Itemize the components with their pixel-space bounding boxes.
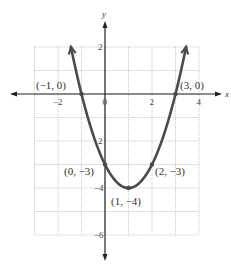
x-tick-label: 0 (103, 97, 108, 107)
point-label: (0, −3) (64, 165, 94, 178)
y-tick-label: 2 (98, 136, 103, 146)
y-axis-bottom-arrow-icon (103, 254, 108, 261)
point-label: (1, −4) (111, 195, 141, 208)
point-label: (−1, 0) (36, 79, 66, 92)
y-tick-label: −4 (94, 183, 104, 193)
point-marker (126, 186, 130, 190)
x-axis-right-arrow-icon (215, 92, 222, 97)
x-axis-label: x (224, 89, 229, 99)
point-marker (79, 92, 83, 96)
point-label: (2, −3) (155, 165, 185, 178)
x-tick-label: 4 (197, 97, 202, 107)
y-tick-label: 2 (98, 42, 103, 52)
x-tick-label: −2 (53, 97, 63, 107)
point-label: (3, 0) (180, 79, 204, 92)
y-axis-label: y (101, 9, 106, 19)
parabola-chart: x y −202422−4−6 (−1, 0)(3, 0)(0, −3)(2, … (0, 0, 231, 270)
y-tick-label: −6 (94, 230, 104, 240)
point-marker (150, 162, 154, 166)
point-marker (103, 162, 107, 166)
x-axis-left-arrow-icon (10, 92, 17, 97)
point-marker (173, 92, 177, 96)
y-axis-top-arrow-icon (103, 21, 108, 28)
x-tick-label: 2 (150, 97, 155, 107)
